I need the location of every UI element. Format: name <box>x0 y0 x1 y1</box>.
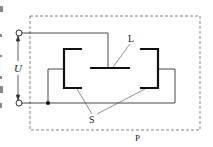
left-branch-wire <box>48 69 64 103</box>
electrode-S-right <box>140 49 158 88</box>
electrode-leaders <box>77 89 145 114</box>
bottom-wire <box>22 69 175 103</box>
junction-dot <box>46 101 50 105</box>
terminal-top <box>16 30 22 36</box>
electrode-label: S <box>89 114 95 125</box>
circuit-diagram: U L S P <box>0 0 213 147</box>
terminal-bottom <box>16 100 22 106</box>
enclosure-label: P <box>135 133 140 143</box>
electrode-S-left <box>64 49 82 88</box>
plate-L-leader <box>113 44 130 67</box>
voltage-label: U <box>14 62 23 74</box>
cropped-text-fragments <box>0 6 3 108</box>
plate-label: L <box>128 33 134 44</box>
